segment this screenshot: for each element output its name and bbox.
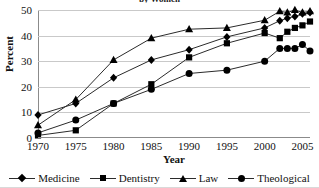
data-point — [284, 29, 290, 35]
data-point — [185, 25, 193, 32]
x-axis-title: Year — [38, 153, 310, 165]
triangle-marker-icon — [170, 173, 196, 183]
x-tick-label: 1990 — [178, 140, 200, 153]
legend-label: Law — [199, 173, 219, 184]
data-point — [306, 7, 314, 14]
data-point — [291, 45, 298, 52]
data-point — [262, 30, 268, 36]
data-point — [186, 46, 193, 54]
x-axis-line — [38, 137, 310, 138]
chart-root: by Women 01020304050 Percent 19701975198… — [0, 0, 319, 188]
data-point — [276, 7, 284, 14]
data-point — [284, 45, 291, 52]
legend-item-theological[interactable]: Theological — [228, 173, 310, 184]
square-marker-icon — [90, 173, 116, 183]
x-tick-label: 1980 — [103, 140, 125, 153]
x-tick-label: 2005 — [291, 140, 313, 153]
series-layer — [38, 10, 310, 138]
x-tick-label: 2000 — [254, 140, 276, 153]
y-tick-label: 40 — [21, 30, 32, 41]
data-point — [186, 70, 193, 77]
data-point — [276, 17, 283, 25]
data-point — [110, 74, 117, 82]
x-tick-label: 1995 — [216, 140, 238, 153]
data-point — [35, 129, 42, 136]
data-point — [223, 67, 230, 74]
data-point — [110, 56, 118, 63]
x-tick-label: 1985 — [140, 140, 162, 153]
y-axis-title: Percent — [3, 24, 15, 84]
data-point — [261, 58, 268, 65]
y-tick-label: 20 — [21, 81, 32, 92]
data-point — [292, 25, 298, 31]
legend-label: Theological — [257, 173, 310, 184]
data-point — [186, 54, 192, 60]
x-tick-label: 1975 — [65, 140, 87, 153]
data-point — [307, 47, 314, 54]
x-tick-label: 1970 — [27, 140, 49, 153]
data-point — [73, 127, 79, 133]
legend-marker — [100, 175, 106, 181]
legend-marker — [179, 175, 187, 182]
data-point — [72, 117, 79, 124]
legend-label: Dentistry — [119, 173, 160, 184]
data-point — [110, 100, 117, 107]
data-point — [307, 18, 313, 24]
legend-marker — [238, 175, 245, 182]
bottom-edge — [0, 187, 319, 188]
legend-item-medicine[interactable]: Medicine — [9, 173, 80, 184]
y-tick-label: 50 — [21, 5, 32, 16]
data-point — [291, 6, 299, 13]
data-point — [148, 56, 155, 64]
diamond-marker-icon — [9, 173, 35, 183]
data-point — [261, 16, 269, 23]
data-point — [224, 40, 230, 46]
data-point — [223, 33, 230, 41]
data-point — [291, 12, 298, 20]
y-tick-label: 10 — [21, 107, 32, 118]
chart-legend: MedicineDentistryLawTheological — [0, 170, 319, 186]
x-axis-tick-labels: 19701975198019851990199520002005 — [38, 140, 310, 154]
data-point — [299, 22, 305, 28]
circle-marker-icon — [228, 173, 254, 183]
data-point — [299, 41, 306, 48]
plot-area — [38, 10, 310, 138]
series-line — [38, 13, 310, 115]
legend-item-dentistry[interactable]: Dentistry — [90, 173, 160, 184]
legend-label: Medicine — [38, 173, 80, 184]
legend-marker — [18, 174, 26, 182]
data-point — [277, 35, 283, 41]
data-point — [276, 45, 283, 52]
chart-title: by Women — [0, 0, 319, 3]
data-point — [148, 86, 155, 93]
series-theological — [35, 41, 314, 136]
y-tick-label: 30 — [21, 56, 32, 67]
legend-item-law[interactable]: Law — [170, 173, 219, 184]
